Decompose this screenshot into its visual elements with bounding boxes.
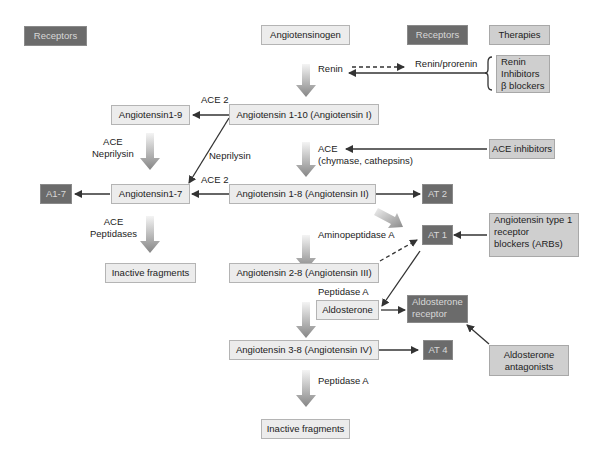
therapy-arbs-line1: Angiotensin type 1 — [494, 214, 572, 226]
therapy-arbs: Angiotensin type 1 receptor blockers (AR… — [489, 213, 579, 257]
node-inactive-fragments-left-label: Inactive fragments — [112, 267, 190, 279]
node-aldosterone-label: Aldosterone — [322, 304, 373, 316]
node-angiotensin-1-7-label: Angiotensin1-7 — [119, 188, 182, 200]
arrow-ang3-to-at1-dashed — [380, 240, 417, 261]
arrow-aldo-antagonists-to-receptor — [467, 325, 489, 344]
therapy-arbs-line3: blockers (ARBs) — [494, 238, 563, 250]
node-inactive-fragments-bottom-label: Inactive fragments — [267, 423, 345, 435]
node-angiotensin-1-10-label: Angiotensin 1-10 (Angiotensin I) — [236, 109, 371, 121]
pathway-arrow-ang3-to-ang38 — [296, 302, 316, 338]
label-ace-main: ACE (chymase, cathepsins) — [318, 143, 413, 167]
label-aminopeptidase-a: Aminopeptidase A — [318, 229, 395, 241]
receptor-a1-7-label: A1-7 — [46, 188, 66, 200]
therapy-aldosterone-antagonists: Aldosterone antagonists — [489, 345, 569, 376]
label-ace-peptidases-line2: Peptidases — [90, 228, 137, 240]
therapy-aldo-antagonists-line2: antagonists — [505, 361, 554, 373]
therapy-aldo-antagonists-line1: Aldosterone — [504, 349, 555, 361]
node-angiotensinogen-label: Angiotensinogen — [270, 29, 341, 41]
node-angiotensin-1-10: Angiotensin 1-10 (Angiotensin I) — [229, 104, 379, 125]
node-angiotensinogen: Angiotensinogen — [261, 25, 350, 45]
label-peptidase-a-upper: Peptidase A — [318, 286, 369, 298]
node-angiotensin-1-9-label: Angiotensin1-9 — [119, 109, 182, 121]
node-inactive-fragments-bottom: Inactive fragments — [261, 419, 350, 439]
therapy-renin-inhibitors-line3: β blockers — [501, 80, 544, 92]
legend-therapies-label: Therapies — [498, 29, 540, 41]
node-angiotensin-3-8-label: Angiotensin 3-8 (Angiotensin IV) — [236, 344, 372, 356]
receptor-aldosterone-line1: Aldosterone — [412, 296, 463, 308]
node-angiotensin-2-8: Angiotensin 2-8 (Angiotensin III) — [229, 263, 379, 283]
receptor-aldosterone: Aldosterone receptor — [407, 295, 468, 323]
node-angiotensin-1-8: Angiotensin 1-8 (Angiotensin II) — [229, 184, 376, 204]
node-aldosterone: Aldosterone — [316, 300, 379, 320]
therapy-renin-inhibitors: Renin Inhibitors β blockers — [496, 55, 550, 93]
node-angiotensin-1-9: Angiotensin1-9 — [111, 105, 190, 125]
receptor-at1-label: AT 1 — [428, 229, 447, 241]
receptor-at4: AT 4 — [423, 340, 453, 360]
brace-icon — [485, 57, 492, 90]
label-ace-neprilysin: ACE Neprilysin — [92, 136, 134, 160]
legend-receptors-left: Receptors — [24, 26, 87, 46]
pathway-arrow-ang38-to-inactive — [296, 370, 316, 407]
label-ace-main-line2: (chymase, cathepsins) — [318, 155, 413, 167]
node-angiotensin-1-8-label: Angiotensin 1-8 (Angiotensin II) — [236, 188, 369, 200]
label-ace-peptidases-line1: ACE — [90, 216, 137, 228]
label-ace2-top: ACE 2 — [201, 94, 228, 106]
receptor-at4-label: AT 4 — [428, 344, 447, 356]
receptor-aldosterone-line2: receptor — [412, 308, 447, 320]
label-ace-neprilysin-line2: Neprilysin — [92, 148, 134, 160]
therapy-renin-inhibitors-line2: Inhibitors — [501, 68, 540, 80]
legend-receptors-right-label: Receptors — [416, 29, 459, 41]
label-ace-main-line1: ACE — [318, 143, 413, 155]
receptor-at1: AT 1 — [422, 225, 453, 245]
label-renin-prorenin: Renin/prorenin — [415, 58, 477, 70]
legend-receptors-right: Receptors — [407, 25, 468, 45]
label-peptidase-a-lower: Peptidase A — [318, 375, 369, 387]
legend-receptors-left-label: Receptors — [34, 30, 77, 42]
pathway-arrow-ang2-to-at1 — [374, 208, 403, 228]
legend-therapies: Therapies — [489, 25, 550, 45]
receptor-at2-label: AT 2 — [428, 188, 447, 200]
pathway-arrow-ang19-to-ang17 — [140, 133, 160, 170]
therapy-renin-inhibitors-line1: Renin — [501, 56, 526, 68]
node-angiotensin-1-7: Angiotensin1-7 — [111, 184, 190, 204]
therapy-arbs-line2: receptor — [494, 226, 529, 238]
label-ace-neprilysin-line1: ACE — [92, 136, 134, 148]
receptor-at2: AT 2 — [422, 184, 453, 204]
therapy-ace-inhibitors: ACE inhibitors — [489, 139, 555, 159]
pathway-arrow-ang1-to-ang2 — [296, 142, 316, 177]
label-renin: Renin — [318, 63, 343, 75]
node-angiotensin-3-8: Angiotensin 3-8 (Angiotensin IV) — [229, 340, 379, 360]
label-ace2-mid: ACE 2 — [201, 174, 228, 186]
node-angiotensin-2-8-label: Angiotensin 2-8 (Angiotensin III) — [236, 267, 371, 279]
label-neprilysin: Neprilysin — [209, 150, 251, 162]
pathway-arrow-angiotensinogen-to-ang1 — [296, 64, 316, 97]
receptor-a1-7: A1-7 — [40, 184, 72, 204]
label-ace-peptidases: ACE Peptidases — [90, 216, 137, 240]
therapy-ace-inhibitors-label: ACE inhibitors — [492, 143, 552, 155]
node-inactive-fragments-left: Inactive fragments — [105, 263, 196, 283]
pathway-arrow-ang17-to-inactive — [140, 216, 160, 253]
